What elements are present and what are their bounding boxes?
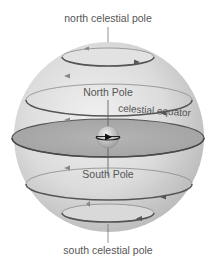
celestial-sphere-diagram: north celestial pole North Pole celestia…	[0, 0, 216, 264]
label-north-celestial-pole: north celestial pole	[64, 12, 152, 24]
label-south-celestial-pole: south celestial pole	[63, 244, 152, 256]
label-north-pole: North Pole	[83, 86, 133, 98]
label-south-pole: South Pole	[82, 168, 134, 180]
